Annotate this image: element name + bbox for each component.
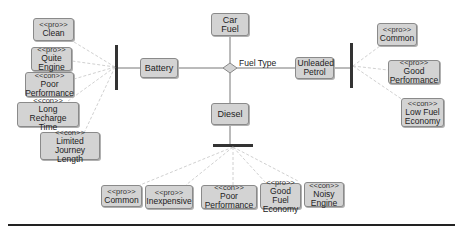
node-unleaded-petrol: Unleaded Petrol — [295, 57, 334, 79]
battery-bar — [115, 45, 118, 90]
trait-pro: <<pro>> Good Fuel Economy — [260, 183, 301, 209]
trait-pro: <<pro>> Good Performance — [388, 60, 440, 84]
trait-label: Common — [104, 196, 138, 205]
trait-label: Good Fuel Economy — [263, 187, 298, 214]
node-label: Battery — [145, 64, 174, 73]
decision-label: Fuel Type — [239, 58, 276, 68]
trait-con: <<con>> Low Fuel Economy — [401, 98, 444, 127]
node-diesel: Diesel — [211, 103, 249, 125]
trait-pro: <<pro>> Common — [377, 23, 417, 46]
feature-diagram: Car Fuel Fuel Type Battery Unleaded Petr… — [0, 0, 460, 230]
unleaded-bar — [350, 43, 353, 88]
trait-label: Good Performance — [390, 67, 439, 85]
trait-pro: <<pro>> Common — [101, 185, 142, 207]
trait-label: Noisy Engine — [311, 190, 337, 208]
trait-pro: <<pro>> Inexpensive — [145, 185, 193, 209]
trait-label: Poor Performance — [25, 80, 74, 98]
trait-label: Clean — [42, 29, 64, 38]
trait-pro: <<pro>> Clean — [33, 18, 74, 41]
trait-label: Common — [380, 34, 414, 43]
trait-con: <<con>> Noisy Engine — [304, 182, 344, 207]
trait-con: <<con>> Long Recharge Time — [17, 102, 79, 127]
trait-label: Quite Engine — [38, 54, 64, 72]
trait-label: Low Fuel Economy — [405, 108, 440, 126]
node-battery: Battery — [140, 58, 178, 78]
trait-con: <<con>> Poor Performance — [201, 185, 257, 209]
node-label: Unleaded Petrol — [298, 59, 332, 77]
decision-diamond — [223, 63, 237, 73]
trait-con: <<con>> Poor Performance — [25, 72, 74, 97]
trait-label: Inexpensive — [146, 197, 191, 206]
node-car-fuel: Car Fuel — [211, 13, 249, 36]
trait-pro: <<pro>> Quite Engine — [31, 47, 72, 71]
trait-label: Limited Journey Length — [43, 137, 97, 164]
node-label: Car Fuel — [214, 16, 246, 34]
node-label: Diesel — [217, 110, 242, 119]
trait-con: <<con>> Limited Journey Length — [40, 132, 100, 160]
trait-label: Poor Performance — [205, 192, 254, 210]
bottom-rule — [8, 224, 455, 226]
diesel-bar — [213, 144, 253, 147]
